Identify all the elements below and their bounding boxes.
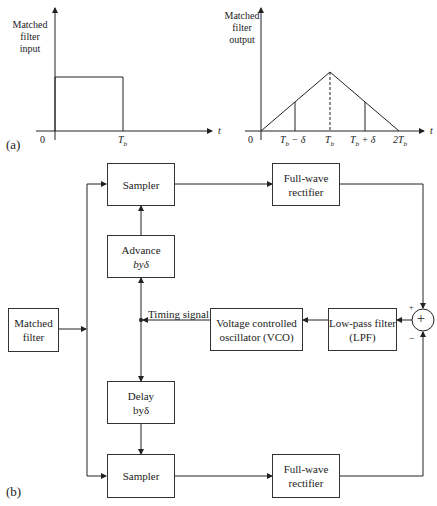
output-tick-2tb: 2Tb: [393, 134, 407, 148]
vco-block: Voltage controlled oscillator (VCO): [210, 308, 303, 351]
timing-signal-label: Timing signal: [148, 308, 209, 320]
diagram-lines: [0, 0, 437, 506]
block-label: rectifier: [289, 476, 324, 490]
input-plot-ylabel: Matched filter input: [8, 19, 52, 55]
output-xlabel: t: [430, 125, 433, 136]
block-label: Sampler: [123, 178, 160, 192]
summer-plus-sign: +: [409, 302, 414, 314]
ylabel-line: filter: [8, 31, 52, 43]
block-label: Full-wave: [284, 171, 329, 185]
input-tick-tb: Tb: [118, 134, 127, 148]
rectifier-top-block: Full-wave rectifier: [272, 163, 340, 206]
block-label: Sampler: [123, 469, 160, 483]
lpf-block: Low-pass filter (LPF): [328, 308, 397, 351]
output-tick-tb: Tb: [325, 134, 334, 148]
block-label: filter: [23, 330, 44, 344]
ylabel-line: filter: [222, 22, 262, 34]
ylabel-line: input: [8, 43, 52, 55]
ylabel-line: Matched: [222, 10, 262, 22]
summer-minus-sign: −: [409, 333, 415, 345]
part-b-tag: (b): [6, 484, 21, 500]
block-label: Advance: [121, 243, 160, 257]
block-label: Low-pass filter: [329, 316, 396, 330]
sampler-bottom-block: Sampler: [107, 454, 175, 498]
ylabel-line: output: [222, 34, 262, 46]
summer-symbol: +: [417, 313, 425, 325]
block-label: (LPF): [349, 330, 375, 344]
part-a-tag: (a): [6, 137, 20, 153]
delay-block: Delay byδ: [107, 381, 175, 424]
input-tick-origin: 0: [40, 134, 45, 145]
output-plot-ylabel: Matched filter output: [222, 10, 262, 46]
ylabel-line: Matched: [8, 19, 52, 31]
block-label: Full-wave: [284, 462, 329, 476]
block-label: byδ: [133, 257, 149, 271]
block-label: oscillator (VCO): [219, 330, 293, 344]
output-tick-origin: 0: [248, 134, 253, 145]
block-label: Delay: [128, 389, 154, 403]
block-label: byδ: [133, 403, 149, 417]
block-label: Voltage controlled: [216, 316, 297, 330]
matched-filter-block: Matched filter: [8, 308, 59, 352]
sampler-top-block: Sampler: [107, 163, 175, 206]
output-tick-tb-plus: Tb + δ: [350, 134, 375, 148]
rectifier-bottom-block: Full-wave rectifier: [272, 454, 340, 498]
block-label: Matched: [14, 316, 52, 330]
advance-block: Advance byδ: [107, 235, 175, 278]
output-tick-tb-minus: Tb − δ: [280, 134, 305, 148]
block-label: rectifier: [289, 185, 324, 199]
input-xlabel: t: [218, 125, 221, 136]
